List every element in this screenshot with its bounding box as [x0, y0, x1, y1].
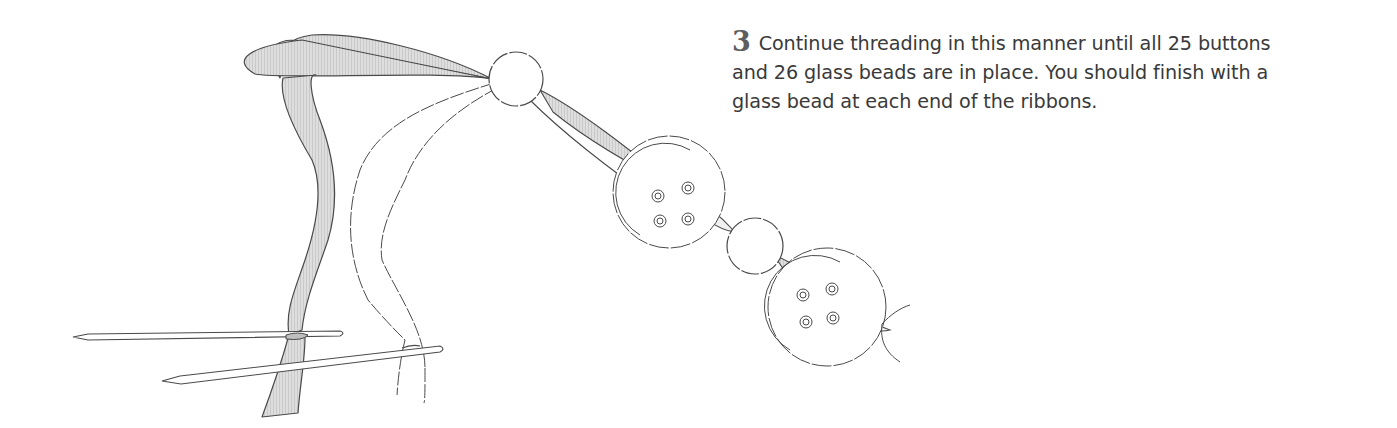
button-1: [613, 136, 725, 248]
step-line-1: Continue threading in this manner until …: [759, 32, 1271, 55]
glass-bead-1: [489, 52, 543, 106]
step-line-3: glass bead at each end of the ribbons.: [732, 90, 1097, 113]
knitting-needles: [73, 331, 443, 384]
glass-bead-2: [727, 218, 783, 274]
step-line-2: and 26 glass beads are in place. You sho…: [732, 61, 1268, 84]
step-instruction: 3Continue threading in this manner until…: [732, 27, 1352, 116]
knot-right: [402, 345, 420, 348]
step-number: 3: [732, 26, 751, 57]
